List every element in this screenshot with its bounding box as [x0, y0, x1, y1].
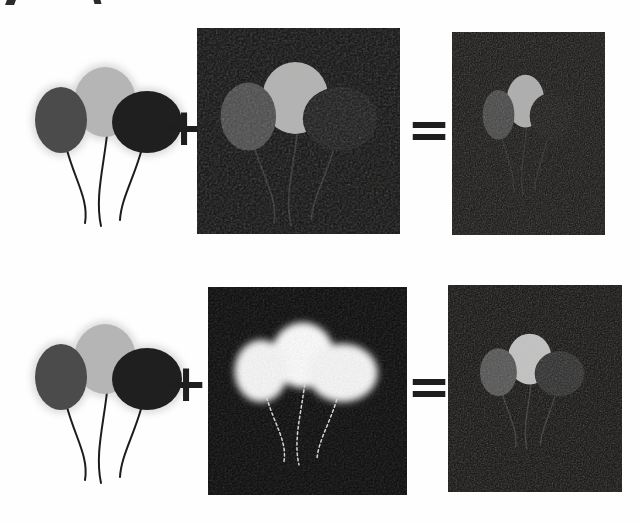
scan-artifact [5, 0, 16, 5]
film-grain-overlay [448, 285, 622, 492]
balloon-string-middle [99, 392, 107, 483]
equals-operator-row2: = [407, 360, 451, 412]
plus-operator-row2: + [164, 357, 208, 409]
scan-artifact [93, 0, 101, 4]
composite-result-image-row2 [448, 285, 622, 492]
equals-operator-row1: = [407, 103, 451, 155]
balloon-left [35, 344, 87, 410]
balloon-string-right [120, 409, 141, 477]
balloon-string-middle [99, 135, 107, 226]
film-grain-overlay [208, 287, 407, 495]
balloon-string-left [67, 150, 86, 223]
film-grain-overlay [197, 28, 400, 234]
dark-addend-image-row1 [197, 28, 400, 234]
balloon-string-left [67, 407, 86, 480]
alpha-matte-image-row2 [208, 287, 407, 495]
composite-result-image-row1 [452, 32, 605, 235]
balloon-string-right [120, 152, 141, 220]
balloon-left [35, 87, 87, 153]
film-grain-overlay [452, 32, 605, 235]
figure-canvas: + = [0, 0, 641, 522]
